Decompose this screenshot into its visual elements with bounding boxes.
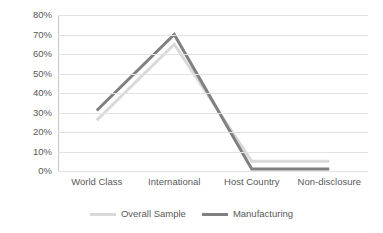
x-axis-category-label: Host Country — [213, 175, 291, 193]
gridline — [58, 93, 368, 94]
gridline — [58, 171, 368, 172]
y-axis-tick-label: 10% — [6, 147, 52, 157]
y-axis: 0%10%20%30%40%50%60%70%80% — [0, 15, 52, 172]
y-axis-tick-label: 0% — [6, 166, 52, 176]
legend-item[interactable]: Overall Sample — [90, 208, 186, 220]
legend-swatch-icon — [90, 213, 116, 216]
line-chart: 0%10%20%30%40%50%60%70%80% World ClassIn… — [0, 0, 383, 233]
gridline — [58, 74, 368, 75]
gridline — [58, 132, 368, 133]
legend-swatch-icon — [202, 213, 228, 216]
gridline — [58, 113, 368, 114]
x-axis-category-label: World Class — [58, 175, 136, 193]
y-axis-tick-label: 70% — [6, 30, 52, 40]
gridline — [58, 54, 368, 55]
y-axis-tick-label: 80% — [6, 10, 52, 20]
y-axis-tick-label: 60% — [6, 49, 52, 59]
x-axis: World ClassInternationalHost CountryNon-… — [58, 175, 368, 193]
y-axis-tick-label: 40% — [6, 88, 52, 98]
legend-label: Manufacturing — [233, 208, 293, 220]
x-axis-category-label: International — [136, 175, 214, 193]
legend-item[interactable]: Manufacturing — [202, 208, 293, 220]
x-axis-category-label: Non-disclosure — [291, 175, 369, 193]
gridline — [58, 152, 368, 153]
y-axis-tick-label: 50% — [6, 69, 52, 79]
legend-label: Overall Sample — [121, 208, 186, 220]
y-axis-tick-label: 30% — [6, 108, 52, 118]
y-axis-tick-label: 20% — [6, 127, 52, 137]
gridline — [58, 15, 368, 16]
plot-area — [58, 15, 368, 171]
gridline — [58, 35, 368, 36]
chart-legend: Overall SampleManufacturing — [0, 204, 383, 224]
